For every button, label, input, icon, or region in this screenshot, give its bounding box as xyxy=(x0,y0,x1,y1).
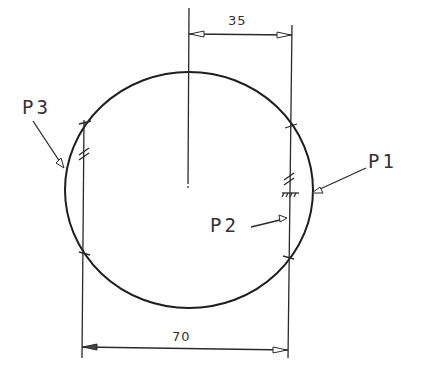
dimension-label-70: 70 xyxy=(172,330,191,343)
technical-drawing xyxy=(0,0,422,379)
hatch-symbol xyxy=(282,193,299,197)
dimension-label-35: 35 xyxy=(228,14,247,27)
center-point xyxy=(187,186,189,188)
left-chord-line xyxy=(82,120,84,358)
leader-p3 xyxy=(33,121,62,165)
arrowhead-right-35 xyxy=(277,32,291,38)
arrowhead-p2 xyxy=(279,215,287,222)
label-p2: P2 xyxy=(210,216,239,235)
arrowhead-left-70 xyxy=(83,344,97,350)
arrowhead-p3 xyxy=(56,158,64,168)
dimension-line-70 xyxy=(82,347,288,350)
center-line xyxy=(188,8,189,184)
label-p3: P3 xyxy=(22,98,51,117)
leader-p1 xyxy=(318,168,366,190)
arrowhead-left-35 xyxy=(190,31,204,37)
leader-p2 xyxy=(251,220,280,227)
label-p1: P1 xyxy=(368,152,397,171)
right-chord-line xyxy=(288,25,292,358)
arrowhead-right-70 xyxy=(273,347,287,353)
break-mark-right xyxy=(284,173,294,185)
